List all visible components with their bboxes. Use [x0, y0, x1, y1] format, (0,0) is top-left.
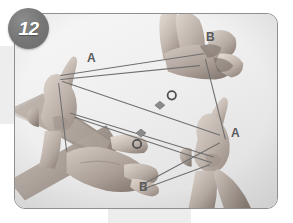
label-b-bottom-left: B: [139, 181, 148, 193]
label-b-top-right: B: [206, 31, 215, 43]
page-background-band-left: [0, 46, 15, 124]
figure-stage: 12 A B A B: [0, 0, 293, 223]
step-number-badge: 12: [8, 8, 49, 49]
page-background-band-bottom: [108, 209, 191, 223]
label-a-bottom-right: A: [231, 127, 240, 139]
label-a-top-left: A: [87, 52, 96, 64]
